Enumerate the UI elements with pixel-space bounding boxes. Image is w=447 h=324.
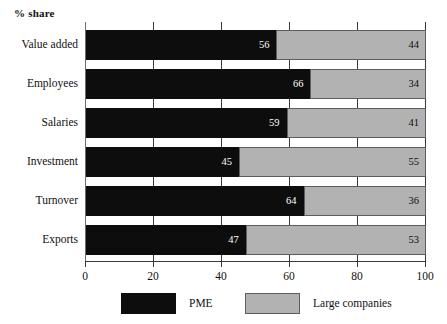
y-axis-line (85, 22, 86, 262)
bar-value-pme: 66 (293, 79, 310, 90)
category-label: Salaries (0, 116, 78, 128)
x-tick-label: 80 (337, 270, 377, 282)
bar-value-large-companies: 36 (408, 196, 425, 207)
bar-value-pme: 45 (222, 157, 239, 168)
bar-value-large-companies: 41 (408, 118, 425, 129)
category-label: Value added (0, 38, 78, 50)
legend-swatch-icon (121, 293, 176, 314)
bar-value-pme: 56 (259, 40, 276, 51)
bar-row: 6436 (86, 186, 426, 216)
x-tick-mark (85, 262, 86, 267)
bar-value-large-companies: 53 (408, 235, 425, 246)
bar-value-large-companies: 55 (409, 157, 426, 168)
bar-value-large-companies: 44 (408, 40, 425, 51)
category-label: Turnover (0, 194, 78, 206)
category-label: Employees (0, 77, 78, 89)
bar-segment-pme: 64 (86, 186, 304, 216)
category-label: Exports (0, 233, 78, 245)
bar-row: 6634 (86, 69, 426, 99)
bar-segment-pme: 66 (86, 69, 310, 99)
category-label: Investment (0, 155, 78, 167)
bar-value-pme: 59 (269, 118, 286, 129)
x-tick-label: 0 (65, 270, 105, 282)
chart-legend: PMELarge companies (0, 292, 447, 318)
bar-segment-pme: 45 (86, 147, 239, 177)
bar-value-pme: 64 (286, 196, 303, 207)
bar-segment-large-companies: 44 (276, 30, 426, 60)
bar-value-pme: 47 (228, 235, 245, 246)
x-tick-mark (425, 262, 426, 267)
x-tick-label: 60 (269, 270, 309, 282)
x-tick-label: 20 (133, 270, 173, 282)
stacked-bar-chart: % share 564466345941455564364753 Value a… (0, 0, 447, 324)
x-tick-label: 40 (201, 270, 241, 282)
bar-row: 5941 (86, 108, 426, 138)
x-tick-mark (153, 262, 154, 267)
bar-segment-pme: 59 (86, 108, 287, 138)
x-tick-label: 100 (405, 270, 445, 282)
legend-swatch-icon (245, 293, 300, 314)
bar-segment-pme: 47 (86, 225, 246, 255)
x-tick-mark (357, 262, 358, 267)
bar-segment-large-companies: 36 (304, 186, 426, 216)
bar-value-large-companies: 34 (408, 79, 425, 90)
bar-row: 5644 (86, 30, 426, 60)
plot-area: 564466345941455564364753 (85, 22, 425, 262)
bar-segment-pme: 56 (86, 30, 276, 60)
legend-label: Large companies (313, 297, 392, 309)
x-tick-mark (221, 262, 222, 267)
x-axis-line (85, 261, 426, 262)
bar-segment-large-companies: 41 (287, 108, 426, 138)
legend-item[interactable]: Large companies (245, 292, 392, 314)
legend-label: PME (189, 297, 213, 309)
legend-item[interactable]: PME (121, 292, 213, 314)
bar-row: 4555 (86, 147, 426, 177)
bar-segment-large-companies: 55 (239, 147, 426, 177)
x-tick-mark (289, 262, 290, 267)
bar-segment-large-companies: 34 (310, 69, 426, 99)
axis-title: % share (14, 7, 55, 19)
bar-row: 4753 (86, 225, 426, 255)
bar-segment-large-companies: 53 (246, 225, 426, 255)
